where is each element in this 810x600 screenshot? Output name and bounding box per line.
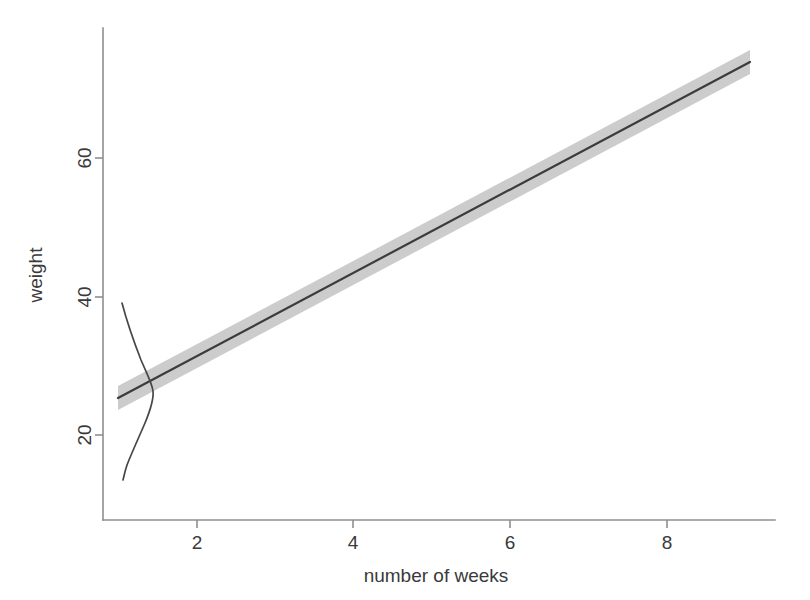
x-axis-title: number of weeks: [364, 565, 509, 586]
y-tick-label-20: 20: [74, 424, 95, 445]
y-tick-label-40: 40: [74, 286, 95, 307]
x-tick-label-6: 6: [505, 532, 516, 553]
x-tick-label-8: 8: [662, 532, 673, 553]
x-tick-label-2: 2: [192, 532, 203, 553]
figure-container: 60 40 20 2 4 6 8 number of weeks weight: [0, 0, 810, 600]
x-tick-label-4: 4: [348, 532, 359, 553]
y-tick-label-60: 60: [74, 147, 95, 168]
regression-plot: 60 40 20 2 4 6 8 number of weeks weight: [0, 0, 810, 600]
y-axis-title: weight: [25, 247, 46, 304]
